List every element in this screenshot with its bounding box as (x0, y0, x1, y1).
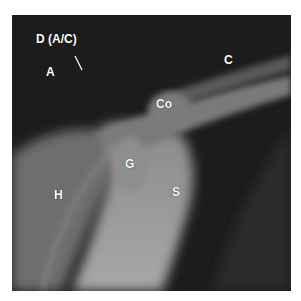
xray-image: D (A/C) A C Co G H S (12, 15, 291, 291)
label-c: C (224, 54, 233, 66)
label-s: S (172, 186, 180, 198)
bone-shapes (12, 15, 291, 291)
label-h: H (54, 189, 63, 201)
label-d-ac: D (A/C) (36, 33, 77, 45)
label-a: A (46, 66, 55, 78)
label-g: G (125, 158, 134, 170)
label-co: Co (156, 98, 172, 110)
pointer-line (75, 56, 82, 70)
